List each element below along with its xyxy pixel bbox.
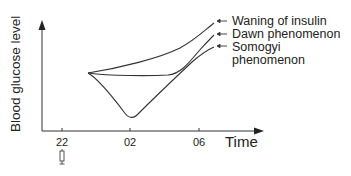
y-axis-label: Blood glucose level	[8, 16, 23, 132]
legend-waning-of-insulin: Waning of insulin	[232, 14, 327, 28]
somogyi-phenomenon-curve	[88, 47, 214, 117]
y-axis-arrow-icon	[39, 20, 46, 30]
legend-somogyi: Somogyi	[232, 40, 281, 54]
waning-of-insulin-curve	[88, 23, 214, 73]
legend-somogyi-phenomenon: phenomenon	[232, 53, 305, 67]
tick-label-06: 06	[193, 136, 205, 148]
legend-dawn-phenomenon: Dawn phenomenon	[232, 27, 340, 41]
x-axis-label: Time	[225, 133, 258, 150]
tick-label-22: 22	[56, 136, 68, 148]
syringe-icon	[60, 149, 65, 164]
tick-label-02: 02	[124, 136, 136, 148]
